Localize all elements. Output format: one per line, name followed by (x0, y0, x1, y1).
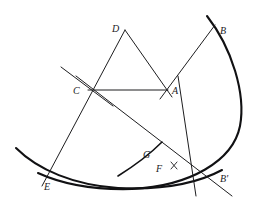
segment-A-B (160, 25, 215, 99)
segment-D-E (42, 30, 125, 186)
arc-major-right (38, 16, 241, 189)
point-label-F: F (155, 163, 163, 174)
segment-C-Bprime (76, 76, 232, 196)
point-label-B: B (220, 25, 226, 36)
construction-canvas: DBCAGFEB' (0, 0, 260, 210)
point-label-D: D (111, 23, 120, 34)
tick-group (171, 162, 177, 169)
geometric-construction-diagram: DBCAGFEB' (0, 0, 260, 210)
segment-D-A (125, 30, 172, 97)
point-label-G: G (143, 149, 150, 160)
point-label-Bp: B' (220, 173, 229, 184)
point-label-group: DBCAGFEB' (43, 23, 229, 192)
segment-upperleft-C (61, 67, 113, 106)
point-label-A: A (171, 85, 179, 96)
arc-group (16, 16, 241, 189)
point-label-C: C (73, 85, 80, 96)
point-label-E: E (43, 181, 50, 192)
